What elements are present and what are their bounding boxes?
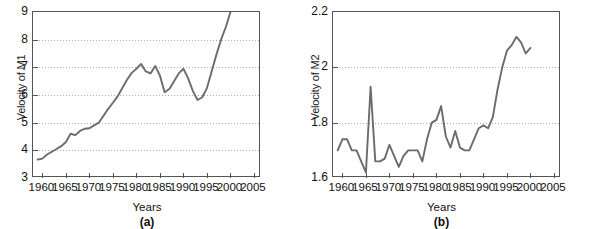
panel-caption-b: (b): [294, 215, 589, 229]
chart-panel-b: Velocity of M2 1.61.822.2 19601965197019…: [294, 0, 589, 229]
y-axis-title-b: Velocity of M2: [307, 0, 323, 175]
panel-caption-a: (a): [0, 215, 294, 229]
x-axis-title-a: Years: [0, 201, 294, 213]
x-tick-label: 1990: [170, 181, 196, 193]
x-tick-label: 1965: [352, 181, 378, 193]
plot-area-a: [32, 11, 260, 177]
plot-area-b: [332, 11, 560, 177]
x-tick-label: 1975: [399, 181, 425, 193]
x-tick-label: 1960: [29, 181, 55, 193]
x-tick-label: 1985: [146, 181, 172, 193]
x-tick-label: 1990: [470, 181, 496, 193]
x-tick-label: 1975: [99, 181, 125, 193]
x-tick-label: 2005: [240, 181, 266, 193]
x-tick-label: 2000: [517, 181, 543, 193]
x-tick-label: 1980: [123, 181, 149, 193]
x-tick-label: 1970: [376, 181, 402, 193]
x-tick-label: 1965: [52, 181, 78, 193]
x-tick-label: 1960: [329, 181, 355, 193]
x-tick-label: 1980: [423, 181, 449, 193]
figure-two-panel-velocity-charts: Velocity of M1 3456789 19601965197019751…: [0, 0, 589, 229]
x-tick-label: 2005: [540, 181, 566, 193]
x-axis-title-b: Years: [294, 201, 589, 213]
x-tick-label: 1970: [76, 181, 102, 193]
plot-svg-b: [333, 12, 561, 178]
x-tick-label: 1995: [193, 181, 219, 193]
plot-svg-a: [33, 12, 261, 178]
chart-panel-a: Velocity of M1 3456789 19601965197019751…: [0, 0, 294, 229]
x-tick-label: 1985: [446, 181, 472, 193]
x-tick-label: 2000: [217, 181, 243, 193]
x-tick-label: 1995: [493, 181, 519, 193]
y-axis-title-a: Velocity of M1: [13, 0, 29, 175]
